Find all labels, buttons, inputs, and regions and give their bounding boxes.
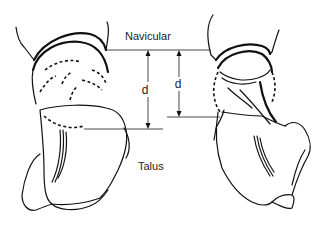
left-dash-5: [70, 86, 78, 100]
navicular-label: Navicular: [125, 30, 171, 42]
left-calcaneal-edge: [22, 154, 52, 210]
right-neck-line: [214, 110, 224, 140]
left-navicular-edge-right: [106, 22, 109, 50]
d-left-arrowhead-up: [146, 50, 151, 56]
d-right-arrowhead-down: [177, 111, 182, 117]
right-head-inner: [220, 70, 270, 80]
right-navicular-edge-left: [208, 15, 216, 60]
right-head-inner-2: [222, 78, 256, 84]
right-talar-head-arc: [218, 51, 272, 72]
left-talus-body: [40, 105, 127, 204]
d-left-arrowhead-down: [146, 123, 151, 129]
talonavicular-diagram: Navicular Talus d d: [0, 0, 330, 228]
right-lateral-inner: [292, 150, 305, 185]
left-head-side: [32, 70, 36, 104]
diagram-canvas: Navicular Talus d d: [0, 0, 330, 228]
right-head-dashed-right: [272, 72, 275, 102]
left-dash-4: [82, 80, 102, 90]
d-right-label: d: [175, 77, 182, 91]
d-left-label: d: [142, 83, 149, 97]
right-navicular-edge-right: [270, 30, 279, 54]
right-talus-lateral: [285, 123, 310, 195]
left-dash-2: [40, 76, 56, 92]
d-right-arrowhead-up: [177, 50, 182, 56]
left-talus-bottom: [52, 190, 108, 210]
right-posterior-process: [272, 195, 294, 209]
right-ridge-3: [240, 90, 270, 124]
left-navicular-edge-left: [16, 27, 34, 60]
left-dash-1: [45, 60, 80, 70]
right-bone-drawing: [208, 15, 310, 209]
right-talus-top: [222, 112, 285, 126]
left-neck-dashed: [44, 116, 84, 128]
left-groove-1: [52, 130, 61, 182]
talus-label: Talus: [138, 160, 164, 172]
right-ridge-1: [228, 88, 252, 108]
right-head-dashed-left: [214, 72, 220, 112]
left-dash-6: [92, 70, 106, 84]
left-dash-3: [62, 72, 72, 84]
